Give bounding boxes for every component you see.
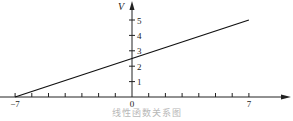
y-axis-label: V — [118, 1, 126, 12]
y-tick-label: 5 — [137, 16, 142, 26]
y-tick-label: 4 — [137, 31, 142, 41]
y-axis-arrow-icon — [130, 1, 135, 10]
y-tick-label: 2 — [137, 62, 142, 72]
y-tick-label: 1 — [137, 77, 142, 87]
figure-caption: 线性函数关系图 — [0, 106, 293, 119]
line-chart: −70712345 V — [0, 0, 293, 121]
axes — [0, 1, 291, 100]
x-axis-arrow-icon — [281, 95, 291, 100]
